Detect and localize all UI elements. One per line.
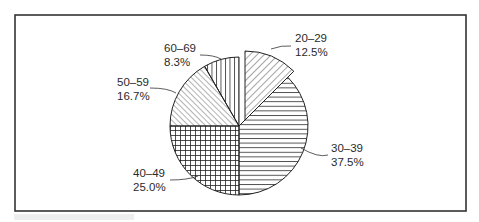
label-pct-40-49: 25.0%: [133, 181, 166, 193]
label-range-60-69: 60–69: [164, 42, 196, 54]
pie-chart: 20–29 12.5% 30–39 37.5% 40–49 25.0% 50–5…: [0, 0, 479, 222]
label-range-20-29: 20–29: [295, 32, 327, 44]
label-pct-50-59: 16.7%: [117, 90, 150, 102]
clipped-caption: [14, 214, 134, 220]
label-range-30-39: 30–39: [331, 142, 363, 154]
label-pct-30-39: 37.5%: [331, 156, 364, 168]
label-pct-20-29: 12.5%: [295, 46, 328, 58]
label-pct-60-69: 8.3%: [164, 56, 190, 68]
label-range-40-49: 40–49: [133, 167, 165, 179]
label-range-50-59: 50–59: [117, 76, 149, 88]
